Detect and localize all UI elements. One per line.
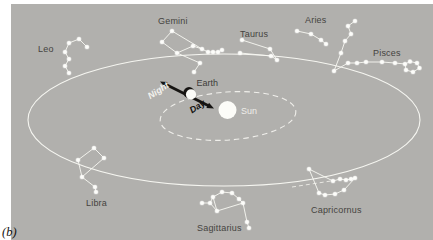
star-icon <box>160 40 164 44</box>
star-icon <box>67 57 71 61</box>
constellation-label-libra: Libra <box>86 198 107 208</box>
sun <box>219 101 237 119</box>
star-icon <box>269 54 273 58</box>
star-icon <box>411 70 415 74</box>
star-icon <box>93 185 97 189</box>
star-icon <box>331 179 335 183</box>
star-icon <box>355 61 359 65</box>
star-icon <box>339 51 343 55</box>
star-icon <box>403 62 407 66</box>
star-icon <box>364 60 368 64</box>
star-icon <box>211 50 215 54</box>
star-icon <box>102 156 106 160</box>
star-icon <box>323 193 327 197</box>
star-icon <box>85 45 89 49</box>
earth-day-side <box>186 89 196 99</box>
star-icon <box>94 190 98 194</box>
star-icon <box>317 191 321 195</box>
star-icon <box>332 69 336 73</box>
star-icon <box>404 68 408 72</box>
star-icon <box>343 39 347 43</box>
star-icon <box>408 60 412 64</box>
star-icon <box>338 177 342 181</box>
star-icon <box>245 220 249 224</box>
star-icon <box>206 50 210 54</box>
star-icon <box>77 37 81 41</box>
star-icon <box>342 188 346 192</box>
star-icon <box>344 178 348 182</box>
star-icon <box>346 24 350 28</box>
star-icon <box>200 47 204 51</box>
star-icon <box>67 71 71 75</box>
star-icon <box>309 32 313 36</box>
star-icon <box>324 42 328 46</box>
star-icon <box>192 70 196 74</box>
star-icon <box>92 146 96 150</box>
star-icon <box>215 209 219 213</box>
star-icon <box>216 50 220 54</box>
star-icon <box>238 51 242 55</box>
star-icon <box>353 176 357 180</box>
star-icon <box>191 44 195 48</box>
star-icon <box>268 47 272 51</box>
constellation-label-gemini: Gemini <box>158 16 188 26</box>
star-icon <box>275 58 279 62</box>
star-icon <box>200 201 204 205</box>
star-icon <box>208 201 212 205</box>
star-icon <box>170 29 174 33</box>
star-icon <box>175 51 179 55</box>
constellation-label-taurus: Taurus <box>240 29 269 39</box>
constellation-label-aries: Aries <box>305 15 327 25</box>
star-icon <box>319 38 323 42</box>
star-icon <box>230 191 234 195</box>
star-icon <box>346 61 350 65</box>
star-icon <box>380 60 384 64</box>
star-icon <box>418 66 422 70</box>
constellation-label-leo: Leo <box>38 44 54 54</box>
star-icon <box>307 167 311 171</box>
star-icon <box>349 32 353 36</box>
sky-panel <box>11 4 433 240</box>
star-icon <box>80 175 84 179</box>
constellation-label-sagittarius: Sagittarius <box>197 223 242 233</box>
star-icon <box>63 50 67 54</box>
star-icon <box>247 226 251 230</box>
diagram-canvas: LeoGeminiTaurusAriesPiscesLibraSagittari… <box>0 0 433 240</box>
star-icon <box>76 158 80 162</box>
figure-panel-label: (b) <box>2 225 17 239</box>
constellation-label-pisces: Pisces <box>373 48 401 58</box>
star-icon <box>67 41 71 45</box>
earth-label: Earth <box>197 78 219 88</box>
star-icon <box>198 61 202 65</box>
star-icon <box>333 192 337 196</box>
sun-label: Sun <box>241 106 257 116</box>
star-icon <box>237 197 241 201</box>
star-icon <box>415 61 419 65</box>
star-icon <box>393 61 397 65</box>
star-icon <box>63 64 67 68</box>
star-icon <box>241 201 245 205</box>
star-icon <box>220 48 224 52</box>
star-icon <box>211 195 215 199</box>
star-icon <box>349 177 353 181</box>
star-icon <box>353 19 357 23</box>
constellation-label-capricornus: Capricornus <box>311 205 362 215</box>
star-icon <box>220 190 224 194</box>
star-icon <box>295 29 299 33</box>
zodiac-diagram: LeoGeminiTaurusAriesPiscesLibraSagittari… <box>0 0 433 240</box>
